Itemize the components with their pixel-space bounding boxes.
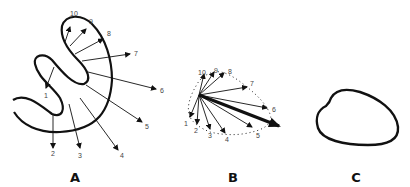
vector-label: 10 [198, 69, 206, 76]
vector-label: 8 [228, 68, 232, 75]
vector-label: 6 [272, 106, 276, 113]
dotted-envelope [188, 72, 270, 135]
panel-c: C [317, 90, 398, 185]
panel-label-b: B [228, 170, 238, 185]
panel-label-c: C [351, 170, 361, 185]
vector-label: 2 [51, 150, 55, 157]
vector-label: 9 [214, 67, 218, 74]
vector-label: 8 [107, 30, 111, 37]
diagram-canvas: 1 2 3 4 5 6 7 8 9 10 A 1 2 3 4 5 6 [0, 0, 410, 187]
vector-label: 2 [194, 127, 198, 134]
vector-label: 3 [78, 152, 82, 159]
vector-label: 1 [184, 120, 188, 127]
vector-label: 3 [208, 132, 212, 139]
vector-label: 5 [256, 132, 260, 139]
panel-b: 1 2 3 4 5 6 7 8 9 10 B [184, 67, 279, 185]
vector-label: 9 [89, 18, 93, 25]
vector-label: 10 [70, 10, 78, 17]
panel-b-vectors [190, 72, 267, 133]
vector-label: 4 [120, 152, 124, 159]
vector-label: 7 [134, 50, 138, 57]
panel-label-a: A [70, 170, 80, 185]
vector-label: 7 [250, 80, 254, 87]
vector-label: 1 [44, 92, 48, 99]
vector-label: 5 [145, 123, 149, 130]
panel-a: 1 2 3 4 5 6 7 8 9 10 A [13, 10, 164, 185]
resultant-vector [199, 95, 279, 126]
vector-label: 6 [160, 87, 164, 94]
vector-label: 4 [225, 136, 229, 143]
result-outline [317, 90, 398, 145]
